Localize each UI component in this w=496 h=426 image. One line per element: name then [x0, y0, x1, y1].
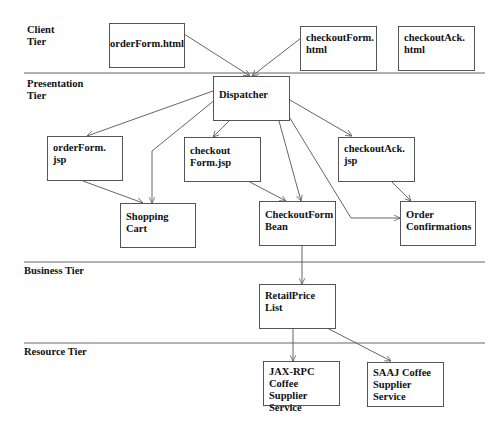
node-jaxrpc-service: JAX-RPC Coffee Supplier Service [263, 361, 340, 406]
node-label: orderForm.html [110, 38, 184, 50]
edge-retailprice-saaj [327, 328, 391, 361]
node-orderform-jsp: orderForm. jsp [47, 136, 123, 181]
node-label: checkoutAck. jsp [344, 143, 405, 167]
node-saaj-service: SAAJ Coffee Supplier Service [367, 362, 444, 407]
node-label: Dispatcher [219, 89, 268, 101]
node-order-confirmations: Order Confirmations [400, 201, 476, 246]
node-retailprice-list: RetailPrice List [259, 284, 336, 329]
edge-dispatcher-checkoutack-jsp [290, 100, 352, 136]
edge-checkoutform-html-dispatcher [252, 38, 301, 76]
node-label: checkout Form.jsp [190, 145, 231, 169]
node-checkoutform-jsp: checkout Form.jsp [184, 137, 261, 182]
node-checkoutack-jsp: checkoutAck. jsp [338, 137, 415, 182]
node-label: SAAJ Coffee Supplier Service [373, 367, 431, 403]
node-shopping-cart: Shopping Cart [120, 203, 196, 248]
node-label: RetailPrice List [265, 290, 315, 314]
edge-checkoutform-jsp-bean [248, 181, 286, 201]
node-checkoutack-html: checkoutAck. html [398, 26, 475, 71]
node-label: orderForm. jsp [53, 142, 106, 166]
node-label: CheckoutForm Bean [265, 209, 333, 233]
resource-tier-label: Resource Tier [24, 346, 87, 358]
architecture-diagram: Client Tier Presentation Tier Business T… [0, 0, 496, 426]
edge-dispatcher-orderform-jsp [87, 91, 213, 136]
edge-orderform-html-dispatcher [184, 34, 250, 76]
node-checkoutform-bean: CheckoutForm Bean [259, 201, 336, 246]
node-dispatcher: Dispatcher [213, 76, 290, 121]
node-orderform-html: orderForm.html [109, 23, 185, 68]
node-label: checkoutForm. html [306, 32, 374, 56]
client-tier-label: Client Tier [27, 24, 54, 48]
node-checkoutform-html: checkoutForm. html [300, 26, 377, 71]
presentation-tier-label: Presentation Tier [27, 78, 83, 102]
edge-dispatcher-checkoutform-bean [279, 121, 301, 201]
business-tier-label: Business Tier [24, 265, 84, 277]
node-label: JAX-RPC Coffee Supplier Service [269, 366, 339, 414]
node-label: Order Confirmations [406, 209, 471, 233]
edge-orderform-jsp-shopping-cart [83, 181, 143, 203]
edge-checkoutack-jsp-order-confirmations [392, 182, 411, 201]
node-label: Shopping Cart [126, 211, 169, 235]
node-label: checkoutAck. html [404, 32, 465, 56]
edge-dispatcher-checkoutform-jsp [213, 121, 229, 137]
